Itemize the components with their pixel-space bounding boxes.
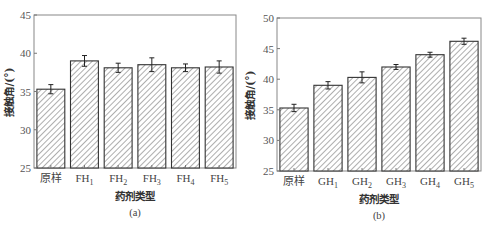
x-tick-label: FH4	[176, 172, 194, 187]
bar	[138, 65, 166, 168]
x-tick-label: 原样	[40, 171, 62, 184]
figure: 2530354045 原样FH1FH2FH3FH4FH5 接触角/(°) 药剂类…	[0, 0, 487, 228]
y-tick-label: 45	[263, 43, 275, 55]
panel-caption: (b)	[373, 210, 386, 222]
x-tick-label: FH5	[210, 172, 228, 187]
bar	[205, 67, 233, 168]
chart-panel-b: 253035404550 原样GH1GH2GH3GH4GH5 接触角/(°) 药…	[244, 12, 481, 222]
bar	[416, 55, 444, 171]
x-tick-label: FH2	[109, 172, 127, 187]
bar	[71, 61, 99, 168]
bars-group	[280, 41, 478, 171]
x-tick-label: FH1	[75, 172, 93, 187]
bar	[314, 85, 342, 171]
bars-group	[37, 61, 233, 168]
y-tick-label: 25	[20, 162, 32, 174]
bar	[348, 77, 376, 171]
y-tick-label: 50	[263, 12, 275, 24]
y-tick-label: 45	[20, 9, 32, 21]
bar	[104, 68, 132, 168]
panel-caption: (a)	[129, 207, 141, 219]
x-tick-label: GH5	[454, 175, 474, 190]
x-tick-label: GH4	[420, 175, 440, 190]
y-tick-label: 30	[263, 134, 275, 146]
x-tick-label: FH3	[143, 172, 161, 187]
bar	[37, 89, 65, 168]
bar	[382, 67, 410, 171]
x-tick-label: GH2	[352, 175, 372, 190]
x-tick-label: GH3	[386, 175, 406, 190]
y-tick-label: 25	[263, 165, 275, 177]
x-axis-label: 药剂类型	[115, 190, 156, 202]
bar	[172, 68, 200, 168]
y-tick-label: 40	[20, 47, 32, 59]
bar	[450, 41, 478, 171]
y-tick-label: 35	[263, 104, 275, 116]
bar	[280, 108, 308, 171]
y-axis-label: 接触角/(°)	[3, 67, 15, 116]
y-tick-label: 30	[20, 124, 32, 136]
x-tick-label: GH1	[318, 175, 338, 190]
chart-panel-a: 2530354045 原样FH1FH2FH3FH4FH5 接触角/(°) 药剂类…	[3, 9, 236, 219]
x-tick-label: 原样	[283, 174, 305, 187]
x-axis-label: 药剂类型	[359, 193, 400, 205]
y-axis-label: 接触角/(°)	[244, 70, 256, 119]
y-tick-label: 40	[263, 73, 275, 85]
y-tick-label: 35	[20, 86, 32, 98]
